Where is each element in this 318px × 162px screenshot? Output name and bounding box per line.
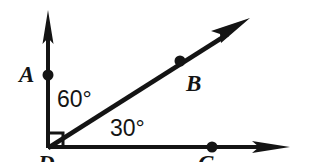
angle-label-upper: 60° [57,88,92,111]
point-b-dot [175,56,186,67]
point-label-c: C [198,152,213,162]
point-label-a: A [19,63,34,86]
point-a-dot [43,70,54,81]
geometry-figure: A B D C 60° 30° [0,0,318,162]
geometry-canvas [0,0,318,162]
point-label-d: D [38,152,55,162]
angle-label-lower: 30° [110,117,145,140]
point-label-b: B [186,72,201,95]
